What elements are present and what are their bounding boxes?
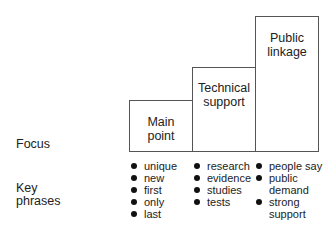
technical-support-phrases: research evidence studies tests [194,160,251,208]
phrase-item: evidence [194,172,251,184]
bullet-icon [131,199,137,205]
phrase-item: unique [131,160,177,172]
phrase-item: tests [194,196,251,208]
phrase-item: public [256,172,322,184]
phrase-item: people say [256,160,322,172]
main-point-phrases: unique new first only last [131,160,177,220]
focus-row-label: Focus [16,137,50,151]
bullet-icon [194,199,200,205]
technical-support-label-line1: Technical [193,81,255,95]
public-linkage-box: Public linkage [255,16,319,152]
technical-support-box: Technical support [192,67,256,152]
phrase-item: strong [256,196,322,208]
bullet-icon [194,187,200,193]
main-point-label-line1: Main [130,115,192,129]
key-phrases-row-label-line1: Key [16,181,38,195]
bullet-icon [131,175,137,181]
main-point-label-line2: point [130,129,192,143]
phrase-item-continuation: demand [256,184,322,196]
phrase-item: first [131,184,177,196]
key-phrases-row-label-line2: phrases [16,194,60,208]
phrase-item: studies [194,184,251,196]
phrase-item: only [131,196,177,208]
phrase-item: research [194,160,251,172]
technical-support-label-line2: support [193,95,255,109]
bullet-icon [256,163,262,169]
bullet-icon [256,175,262,181]
phrase-item: last [131,208,177,220]
phrase-item: new [131,172,177,184]
bullet-icon [131,187,137,193]
bullet-icon [194,175,200,181]
public-linkage-label-line1: Public [256,31,318,45]
bullet-icon [131,163,137,169]
phrase-item-continuation: support [256,208,322,220]
bullet-icon [256,199,262,205]
main-point-box: Main point [129,100,193,152]
public-linkage-label-line2: linkage [256,45,318,59]
bullet-icon [194,163,200,169]
bullet-icon [131,211,137,217]
public-linkage-phrases: people say public demand strong support [256,160,322,220]
